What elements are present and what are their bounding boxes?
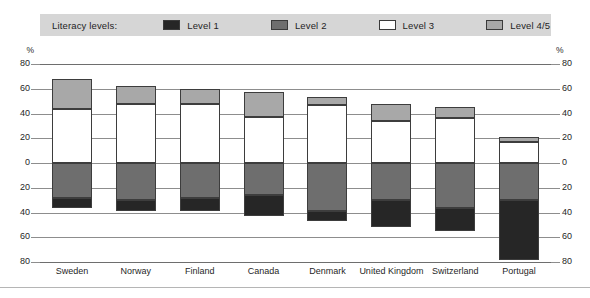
x-axis-label: Canada bbox=[232, 266, 296, 276]
y-tick-right-80-0: 80 bbox=[562, 59, 588, 68]
bar-group[interactable] bbox=[307, 64, 347, 262]
bar-group[interactable] bbox=[499, 64, 539, 262]
bar-group[interactable] bbox=[52, 64, 92, 262]
bar-segment[interactable] bbox=[307, 163, 347, 211]
bar-segment[interactable] bbox=[180, 163, 220, 198]
x-axis-label: Denmark bbox=[296, 266, 360, 276]
tickmark-left-3 bbox=[31, 138, 40, 139]
tickmark-right-2 bbox=[551, 114, 560, 115]
tickmark-right-1 bbox=[551, 89, 560, 90]
y-tick-right-80-8: 80 bbox=[562, 257, 588, 266]
y-tick-left-80-0: 80 bbox=[4, 59, 30, 68]
tickmark-right-3 bbox=[551, 138, 560, 139]
legend-label-level-4-5: Level 4/5 bbox=[510, 20, 550, 31]
bar-segment[interactable] bbox=[435, 163, 475, 208]
bar-segment[interactable] bbox=[371, 163, 411, 200]
y-tick-right-40-2: 40 bbox=[562, 109, 588, 118]
y-tick-left-40-2: 40 bbox=[4, 109, 30, 118]
bar-segment[interactable] bbox=[52, 79, 92, 109]
legend-swatch-level-1 bbox=[163, 20, 180, 30]
legend-swatch-level-2 bbox=[271, 20, 288, 30]
bar-segment[interactable] bbox=[116, 200, 156, 211]
bar-group[interactable] bbox=[371, 64, 411, 262]
bar-segment[interactable] bbox=[307, 211, 347, 221]
bar-segment[interactable] bbox=[244, 163, 284, 195]
x-axis-label: Norway bbox=[104, 266, 168, 276]
tickmark-left-0 bbox=[31, 64, 40, 65]
bar-segment[interactable] bbox=[116, 104, 156, 163]
legend-item-level-3: Level 3 bbox=[379, 20, 435, 31]
bar-segment[interactable] bbox=[499, 200, 539, 259]
bar-segment[interactable] bbox=[307, 97, 347, 104]
legend-swatch-level-4-5 bbox=[486, 20, 503, 30]
bar-segment[interactable] bbox=[116, 163, 156, 200]
bar-segment[interactable] bbox=[244, 117, 284, 163]
tickmark-left-7 bbox=[31, 237, 40, 238]
y-tick-left-80-8: 80 bbox=[4, 257, 30, 266]
x-axis-label: Switzerland bbox=[423, 266, 487, 276]
bar-group[interactable] bbox=[180, 64, 220, 262]
bar-segment[interactable] bbox=[499, 137, 539, 142]
bar-segment[interactable] bbox=[371, 121, 411, 163]
legend-label-level-2: Level 2 bbox=[295, 20, 327, 31]
tickmark-right-0 bbox=[551, 64, 560, 65]
y-tick-right-40-6: 40 bbox=[562, 208, 588, 217]
y-tick-left-0-4: 0 bbox=[4, 158, 30, 167]
legend-item-level-2: Level 2 bbox=[271, 20, 327, 31]
bar-segment[interactable] bbox=[244, 92, 284, 117]
bar-segment[interactable] bbox=[371, 104, 411, 121]
tickmark-left-6 bbox=[31, 213, 40, 214]
legend-title: Literacy levels: bbox=[52, 20, 117, 31]
bar-group[interactable] bbox=[244, 64, 284, 262]
bar-segment[interactable] bbox=[52, 109, 92, 163]
legend-item-level-4-5: Level 4/5 bbox=[486, 20, 550, 31]
y-tick-right-60-1: 60 bbox=[562, 84, 588, 93]
tickmark-right-6 bbox=[551, 213, 560, 214]
bar-segment[interactable] bbox=[116, 86, 156, 103]
legend-item-level-1: Level 1 bbox=[163, 20, 219, 31]
chart-legend: Literacy levels: Level 1 Level 2 Level 3… bbox=[40, 14, 551, 36]
tickmark-left-4 bbox=[31, 163, 40, 164]
tickmark-right-4 bbox=[551, 163, 560, 164]
bar-segment[interactable] bbox=[52, 163, 92, 198]
y-axis-unit-right: % bbox=[556, 45, 582, 55]
bar-segment[interactable] bbox=[52, 198, 92, 208]
bar-segment[interactable] bbox=[499, 142, 539, 163]
legend-swatch-level-3 bbox=[379, 20, 396, 30]
bar-segment[interactable] bbox=[180, 104, 220, 163]
bar-segment[interactable] bbox=[499, 163, 539, 200]
tickmark-left-1 bbox=[31, 89, 40, 90]
bar-segment[interactable] bbox=[435, 208, 475, 232]
legend-label-level-3: Level 3 bbox=[403, 20, 435, 31]
bar-segment[interactable] bbox=[435, 107, 475, 118]
bar-series-container bbox=[40, 64, 551, 262]
tickmark-left-8 bbox=[31, 262, 40, 263]
bar-segment[interactable] bbox=[180, 89, 220, 104]
y-tick-left-20-5: 20 bbox=[4, 183, 30, 192]
tickmark-right-7 bbox=[551, 237, 560, 238]
y-tick-left-60-1: 60 bbox=[4, 84, 30, 93]
y-axis-unit-left: % bbox=[8, 45, 34, 55]
x-axis-labels: SwedenNorwayFinlandCanadaDenmarkUnited K… bbox=[40, 266, 551, 282]
chart-root: Literacy levels: Level 1 Level 2 Level 3… bbox=[0, 0, 590, 298]
tickmark-right-8 bbox=[551, 262, 560, 263]
bar-segment[interactable] bbox=[371, 200, 411, 227]
bar-segment[interactable] bbox=[180, 198, 220, 212]
bar-segment[interactable] bbox=[307, 105, 347, 163]
y-tick-left-60-7: 60 bbox=[4, 232, 30, 241]
tickmark-left-2 bbox=[31, 114, 40, 115]
legend-label-level-1: Level 1 bbox=[187, 20, 219, 31]
bar-group[interactable] bbox=[435, 64, 475, 262]
y-tick-left-20-3: 20 bbox=[4, 133, 30, 142]
y-tick-right-0-4: 0 bbox=[562, 158, 588, 167]
y-tick-left-40-6: 40 bbox=[4, 208, 30, 217]
y-tick-right-60-7: 60 bbox=[562, 232, 588, 241]
y-tick-right-20-5: 20 bbox=[562, 183, 588, 192]
footer-rule bbox=[0, 287, 590, 288]
bar-segment[interactable] bbox=[435, 118, 475, 163]
x-axis-label: Portugal bbox=[487, 266, 551, 276]
bar-segment[interactable] bbox=[244, 195, 284, 216]
bar-group[interactable] bbox=[116, 64, 156, 262]
x-axis-label: Finland bbox=[168, 266, 232, 276]
tickmark-left-5 bbox=[31, 188, 40, 189]
